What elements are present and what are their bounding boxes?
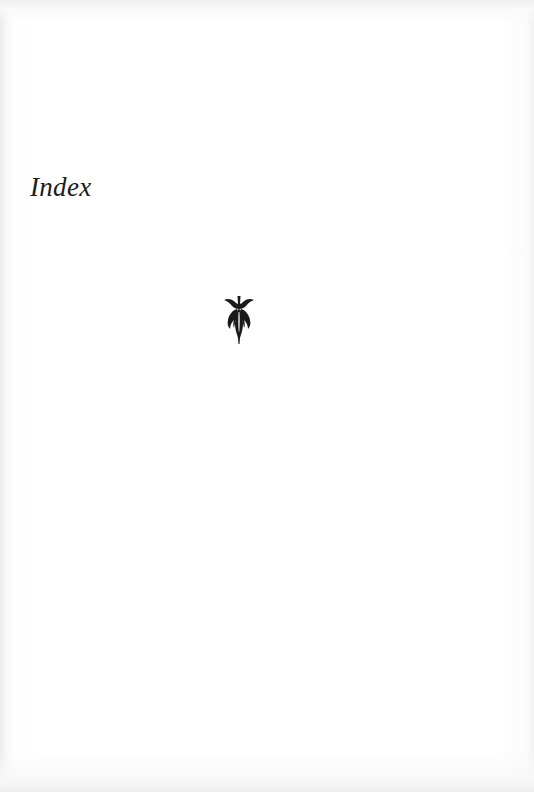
- book-page: Index: [0, 0, 534, 792]
- fleuron-ornament-icon: [222, 294, 256, 346]
- page-heading: Index: [30, 171, 91, 203]
